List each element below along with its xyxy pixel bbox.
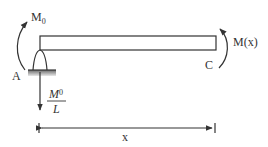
applied-moment-label: M0 [31, 10, 46, 26]
internal-moment-label: M(x) [233, 35, 258, 49]
reaction-numerator: M0 [48, 87, 63, 101]
internal-moment-arrow [219, 29, 227, 68]
pin-support [33, 50, 47, 70]
distance-label: x [122, 130, 128, 144]
point-a-label: A [12, 69, 21, 83]
reaction-denominator: L [52, 102, 60, 116]
ground-hatch [28, 70, 56, 76]
beam [40, 36, 216, 50]
beam-diagram: M0 A M0 L C M(x) x [0, 0, 268, 147]
applied-moment-arrow [17, 22, 27, 70]
point-c-label: C [205, 58, 213, 72]
